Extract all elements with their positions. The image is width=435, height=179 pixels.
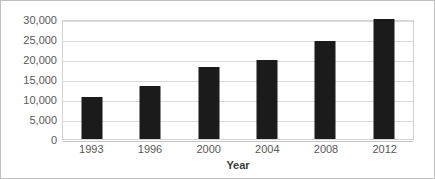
plot-area — [62, 20, 414, 140]
y-axis-tick-label: 20,000 — [1, 55, 57, 66]
x-axis-title: Year — [62, 159, 414, 172]
x-axis-tick-label: 2008 — [314, 143, 338, 156]
x-axis-tick-label: 2012 — [372, 143, 396, 156]
bar[interactable] — [82, 97, 103, 139]
bar-slot — [63, 21, 121, 139]
bar-slot — [355, 21, 413, 139]
bar-chart-figure: 05,00010,00015,00020,00025,00030,000 199… — [0, 0, 435, 179]
bar[interactable] — [373, 19, 394, 139]
bar-slot — [238, 21, 296, 139]
x-axis-tick-labels: 199319962000200420082012 — [62, 143, 414, 159]
bar-slot — [296, 21, 354, 139]
x-axis-tick-label: 2000 — [196, 143, 220, 156]
y-axis-tick-label: 10,000 — [1, 95, 57, 106]
x-axis-tick-label: 1993 — [79, 143, 103, 156]
bars-group — [63, 21, 413, 139]
bar-slot — [180, 21, 238, 139]
y-axis-tick-label: 25,000 — [1, 35, 57, 46]
bar[interactable] — [315, 41, 336, 139]
bar[interactable] — [198, 67, 219, 139]
bar[interactable] — [257, 60, 278, 139]
y-axis-tick-label: 15,000 — [1, 75, 57, 86]
y-axis-tick-label: 30,000 — [1, 15, 57, 26]
y-axis-tick-label: 0 — [1, 135, 57, 146]
x-axis-tick-label: 1996 — [138, 143, 162, 156]
bar-slot — [121, 21, 179, 139]
y-axis-tick-labels: 05,00010,00015,00020,00025,00030,000 — [1, 20, 57, 140]
x-axis-tick-label: 2004 — [255, 143, 279, 156]
bar[interactable] — [140, 86, 161, 139]
y-axis-tick-label: 5,000 — [1, 115, 57, 126]
gridline — [63, 141, 413, 142]
